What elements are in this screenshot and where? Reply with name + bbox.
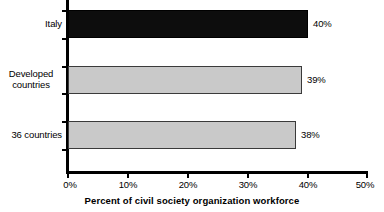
x-axis-tick-label-30: 30% xyxy=(239,179,258,190)
bar-value-italy: 40% xyxy=(313,18,332,29)
x-axis-tick-30 xyxy=(247,173,249,178)
x-axis-tick-label-10: 10% xyxy=(119,179,138,190)
x-axis-tick-label-50: 50% xyxy=(356,179,375,190)
y-axis-tick xyxy=(62,93,66,95)
x-axis-tick-label-20: 20% xyxy=(179,179,198,190)
x-axis-tick-0 xyxy=(67,173,69,178)
category-label-italy: Italy xyxy=(45,18,66,29)
bar-value-developed-countries: 39% xyxy=(307,74,326,85)
x-axis-tick-label-0: 0% xyxy=(63,179,77,190)
chart-screenshot: 0% 10% 20% 30% 40% 50% 40% Italy 39% Dev… xyxy=(0,0,384,212)
y-axis-tick xyxy=(62,10,66,12)
bar-chart-plot: 0% 10% 20% 30% 40% 50% 40% Italy 39% Dev… xyxy=(0,0,384,212)
x-axis-title: Percent of civil society organization wo… xyxy=(0,195,384,207)
y-axis-tick xyxy=(62,38,66,40)
bar-italy[interactable] xyxy=(68,10,308,38)
x-axis-tick-label-40: 40% xyxy=(299,179,318,190)
x-axis-tick-10 xyxy=(127,173,129,178)
x-axis-tick-50 xyxy=(366,173,368,178)
bar-value-36-countries: 38% xyxy=(301,129,320,140)
x-axis-tick-40 xyxy=(307,173,309,178)
bar-developed-countries[interactable] xyxy=(68,66,302,94)
y-axis-tick xyxy=(62,149,66,151)
category-label-36-countries: 36 countries xyxy=(11,129,66,140)
category-label-developed-countries: Developed countries xyxy=(0,68,66,90)
x-axis-tick-20 xyxy=(187,173,189,178)
y-axis-tick xyxy=(62,121,66,123)
bar-36-countries[interactable] xyxy=(68,121,296,149)
x-axis-line xyxy=(66,171,368,174)
